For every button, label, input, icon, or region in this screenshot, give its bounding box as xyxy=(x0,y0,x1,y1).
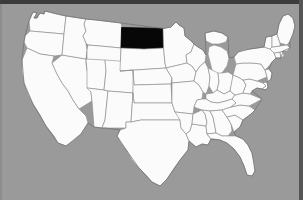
state-ND[interactable] xyxy=(121,28,164,50)
state-SD[interactable] xyxy=(120,48,166,71)
us-map-figure: United States map with one state highlig… xyxy=(0,0,303,200)
state-ID[interactable] xyxy=(62,16,87,59)
right-edge-band xyxy=(299,0,303,200)
us-states-map[interactable] xyxy=(0,0,303,200)
state-MT[interactable] xyxy=(83,19,122,48)
state-UT[interactable] xyxy=(86,59,106,90)
left-edge-band xyxy=(0,0,2,200)
top-edge-band xyxy=(0,0,303,4)
